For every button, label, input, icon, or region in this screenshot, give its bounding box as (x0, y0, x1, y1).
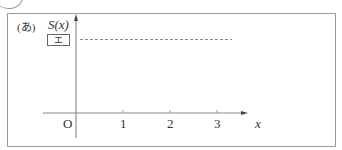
x-axis-label: x (255, 117, 261, 130)
y-axis-arrow-icon (74, 14, 78, 21)
x-tick-1: 1 (120, 117, 127, 130)
x-tick-2: 2 (167, 117, 174, 130)
y-axis-label: S(x) (48, 18, 69, 31)
x-axis-arrow-icon (241, 111, 248, 115)
x-tick-3: 3 (214, 117, 221, 130)
figure-marker: (あ) (17, 22, 35, 33)
origin-label: O (63, 117, 72, 130)
blank-answer-box: エ (47, 34, 70, 46)
